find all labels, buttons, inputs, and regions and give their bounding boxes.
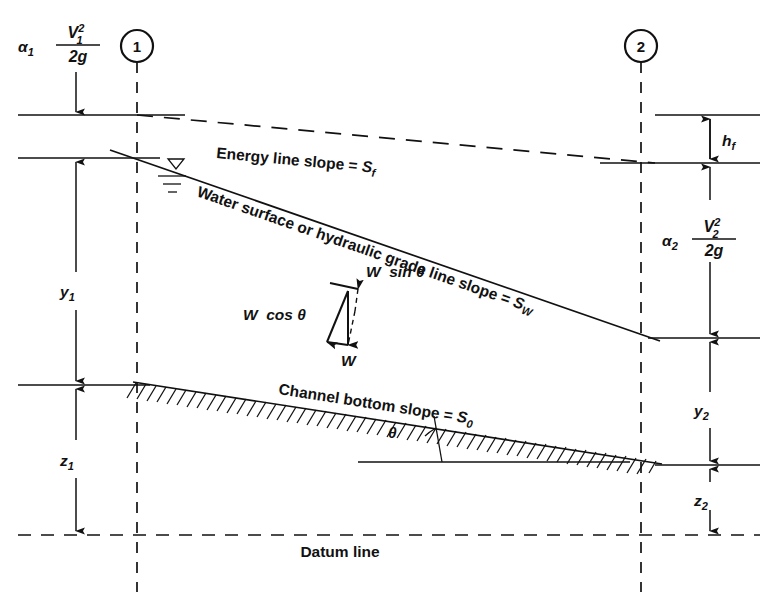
- depth-1-dimension: y1: [59, 162, 76, 381]
- theta-vertical-leg: [434, 416, 442, 462]
- velocity-head-1-dimension: α1 V21 2g: [18, 22, 100, 112]
- velocity-head-2-numerator: V22: [704, 216, 721, 240]
- elevation-2-dimension: z2: [693, 469, 710, 531]
- left-reference-lines: [18, 115, 185, 385]
- velocity-head-1-denominator: 2g: [68, 48, 88, 65]
- velocity-head-2-dimension: α2 V22 2g: [662, 167, 736, 334]
- weight-parallelogram-dash-right: [355, 289, 358, 311]
- depth-1-label: y1: [59, 283, 75, 303]
- weight-parallelogram-dash-right-lower: [348, 311, 355, 345]
- datum-line-label: Datum line: [300, 543, 380, 560]
- elevation-1-label: z1: [59, 452, 74, 472]
- depth-2-dimension: y2: [693, 342, 710, 461]
- elevation-2-label: z2: [693, 492, 708, 512]
- energy-line-label: Energy line slope = Sf: [215, 144, 378, 179]
- energy-line-slope: [137, 115, 655, 163]
- channel-flow-diagram: 1 2 α1 V21 2g y1 z1 hf α2 V22 2g: [0, 0, 778, 599]
- theta-arc: [425, 428, 436, 436]
- weight-cos-label: W cos θ: [243, 306, 306, 323]
- energy-grade-line: [137, 115, 655, 163]
- water-surface-symbol: [158, 159, 186, 192]
- channel-bottom-slope-line: [133, 382, 662, 464]
- water-surface-line: [110, 150, 660, 341]
- theta-label: θ: [388, 424, 397, 441]
- weight-label: W: [341, 352, 357, 369]
- hydraulic-grade-line: [110, 150, 660, 341]
- weight-parallelogram-base: [327, 342, 348, 345]
- depth-2-label: y2: [693, 402, 709, 422]
- weight-vector-W-cos-theta: [327, 291, 348, 342]
- head-loss-dimension: hf: [710, 119, 736, 159]
- elevation-1-dimension: z1: [59, 389, 76, 531]
- weight-vector-W-sin-theta: [330, 283, 358, 289]
- velocity-head-1-numerator: V21: [68, 22, 85, 46]
- channel-bottom-label: Channel bottom slope = S0: [277, 380, 475, 430]
- channel-bottom-label-group: Channel bottom slope = S0: [277, 380, 475, 430]
- weight-vector-diagram: W sin θ W cos θ W: [243, 263, 425, 369]
- right-reference-lines: [600, 115, 760, 465]
- diagram-root: 1 2 α1 V21 2g y1 z1 hf α2 V22 2g: [0, 0, 778, 599]
- section-marker-1-label: 1: [133, 38, 141, 55]
- section-marker-2-label: 2: [637, 38, 645, 55]
- section-line-2-group: 2: [625, 30, 657, 592]
- energy-line-label-group: Energy line slope = Sf: [215, 144, 378, 179]
- velocity-head-1-alpha: α1: [18, 38, 34, 58]
- water-surface-label: Water surface or hydraulic grade line sl…: [194, 183, 538, 319]
- head-loss-label: hf: [722, 132, 736, 152]
- velocity-head-2-denominator: 2g: [704, 242, 724, 259]
- water-surface-label-group: Water surface or hydraulic grade line sl…: [194, 183, 538, 319]
- velocity-head-2-alpha: α2: [662, 232, 678, 252]
